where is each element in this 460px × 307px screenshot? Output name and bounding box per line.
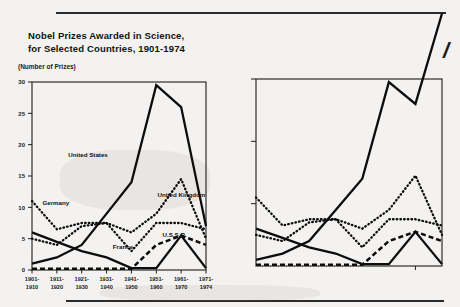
y-tick-label: 10	[18, 205, 25, 211]
x-tick-label: 1951-	[149, 276, 163, 282]
x-tick-label: 1971-	[199, 276, 213, 282]
x-tick-label: 1974	[200, 284, 213, 290]
chart-title-line-0: Nobel Prizes Awarded in Science,	[28, 30, 258, 43]
x-tick-label: 1921-	[75, 276, 89, 282]
x-tick-label: 1961-	[174, 276, 188, 282]
x-tick-label: 1970	[175, 284, 187, 290]
x-tick-label: 1960	[150, 284, 162, 290]
x-tick-label: 1910	[26, 284, 38, 290]
chart-title: Nobel Prizes Awarded in Science,for Sele…	[28, 30, 258, 55]
duplicate-chart-svg	[252, 0, 460, 307]
x-tick-label: 1930	[75, 284, 87, 290]
x-tick-label: 1940	[100, 284, 112, 290]
main-chart-svg: 0510152025301901-19101911-19201921-19301…	[0, 70, 240, 300]
y-tick-label: 5	[22, 236, 26, 242]
x-tick-label: 1931-	[99, 276, 113, 282]
x-tick-label: 1950	[125, 284, 137, 290]
y-tick-label: 25	[18, 111, 25, 117]
main-chart-panel: 0510152025301901-19101911-19201921-19301…	[0, 70, 240, 300]
series-label-united-kingdom: United Kingdom	[158, 191, 206, 198]
chart-title-line-1: for Selected Countries, 1901-1974	[28, 43, 258, 56]
y-tick-label: 0	[22, 267, 26, 273]
x-tick-label: 1941-	[124, 276, 138, 282]
series-label-germany: Germany	[42, 199, 69, 206]
series-label-france: France	[113, 243, 134, 250]
x-tick-label: 1911-	[50, 276, 64, 282]
x-tick-label: 1920	[51, 284, 63, 290]
y-tick-label: 15	[18, 173, 25, 179]
duplicate-chart-panel	[252, 0, 460, 307]
x-tick-label: 1901-	[25, 276, 39, 282]
y-tick-label: 30	[18, 79, 25, 85]
series-label-u-s-s-r: U.S.S.R.	[163, 231, 187, 238]
y-tick-label: 20	[18, 142, 25, 148]
series-label-united-states: United States	[68, 151, 108, 158]
y-axis-note: (Number of Prizes)	[18, 63, 76, 70]
